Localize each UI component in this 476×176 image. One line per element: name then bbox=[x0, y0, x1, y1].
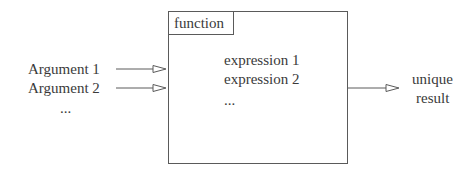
arrows-layer bbox=[0, 0, 476, 176]
argument-2-arrowhead-icon bbox=[153, 85, 166, 92]
argument-1-arrowhead-icon bbox=[153, 66, 166, 73]
output-arrowhead-icon bbox=[386, 85, 399, 92]
